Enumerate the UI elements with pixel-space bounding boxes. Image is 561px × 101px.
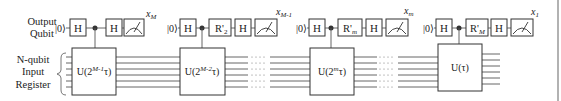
svg-text:H: H xyxy=(370,22,378,34)
svg-text:U(τ): U(τ) xyxy=(451,62,469,74)
svg-text:H: H xyxy=(440,22,448,34)
svg-text:Input: Input xyxy=(22,66,44,77)
stage-2: |0⟩ H R'2 H xM-1 U(2M-2τ) xyxy=(167,6,292,95)
measurement-meter-icon xyxy=(511,19,533,36)
svg-text:xM: xM xyxy=(145,8,157,21)
output-qubit-label: Output Qubit xyxy=(27,16,56,39)
svg-text:|0⟩: |0⟩ xyxy=(296,23,307,34)
stage-1: |0⟩ H H xM U(2M-1τ) xyxy=(55,8,157,95)
stage-3: |0⟩ H R'm H xm U(2mτ) xyxy=(296,5,413,95)
svg-text:Output: Output xyxy=(27,16,56,27)
svg-text:Register: Register xyxy=(16,79,51,90)
svg-text:H: H xyxy=(313,22,321,34)
stage-4: |0⟩ H R'M H x1 U(τ) xyxy=(423,6,539,91)
svg-text:U(2mτ): U(2mτ) xyxy=(318,65,346,78)
svg-text:x1: x1 xyxy=(530,6,539,19)
svg-text:|0⟩: |0⟩ xyxy=(55,23,66,34)
svg-text:Qubit: Qubit xyxy=(30,28,54,39)
svg-text:H: H xyxy=(184,22,192,34)
register-wires xyxy=(66,54,500,87)
measurement-meter-icon xyxy=(255,19,277,36)
circuit-canvas: Output Qubit N-qubit Input Register xyxy=(0,0,561,101)
svg-text:|0⟩: |0⟩ xyxy=(167,23,178,34)
measurement-meter-icon xyxy=(386,19,408,36)
register-brace xyxy=(57,53,66,95)
svg-text:H: H xyxy=(239,22,247,34)
svg-text:H: H xyxy=(74,22,82,34)
svg-text:xm: xm xyxy=(403,5,414,18)
svg-text:H: H xyxy=(495,22,503,34)
input-register-label: N-qubit Input Register xyxy=(16,54,51,90)
svg-text:xM-1: xM-1 xyxy=(275,6,292,19)
svg-text:N-qubit: N-qubit xyxy=(17,54,50,65)
measurement-meter-icon xyxy=(124,19,144,36)
svg-text:H: H xyxy=(110,22,118,34)
quantum-circuit-diagram: Output Qubit N-qubit Input Register xyxy=(0,0,561,101)
svg-text:|0⟩: |0⟩ xyxy=(423,23,434,34)
